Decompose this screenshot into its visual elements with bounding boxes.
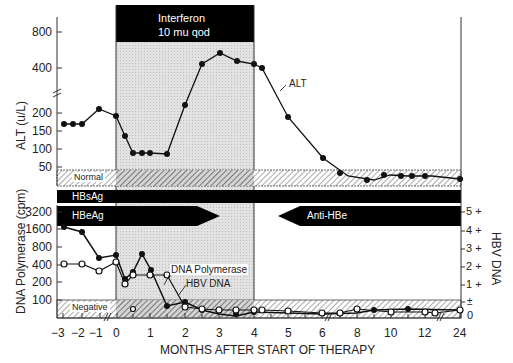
- x-tick-m1: −1: [89, 326, 103, 340]
- hbv-tick-1: 1 +: [466, 278, 482, 290]
- x-tick-0: 0: [113, 326, 120, 340]
- x-tick-12: 12: [418, 326, 431, 340]
- alt-tick-400: 400: [12, 61, 52, 75]
- interferon-dose-label: 10 mu qod: [158, 26, 210, 38]
- x-tick-1: 1: [147, 326, 154, 340]
- x-tick-5: 5: [285, 326, 292, 340]
- hbeag-label: HBeAg: [72, 210, 104, 221]
- hbv-tick-2: 2 +: [466, 260, 482, 272]
- alt-y-axis-title: ALT (u/L): [14, 101, 28, 150]
- hbv-dna-series-label: HBV DNA: [186, 278, 230, 289]
- hbv-tick-pm: ±: [467, 296, 473, 307]
- negative-band-label: Negative: [70, 302, 110, 312]
- dna-polymerase-series-label: DNA Polymerase: [170, 264, 248, 275]
- alt-series-label: ALT: [289, 78, 307, 89]
- x-tick-m3: −3: [51, 326, 65, 340]
- hbv-tick-4: 4 +: [466, 224, 482, 236]
- antihbe-arrow: [278, 206, 461, 226]
- x-tick-6: 6: [319, 326, 326, 340]
- x-tick-3: 3: [216, 326, 223, 340]
- interferon-label: Interferon: [158, 12, 205, 24]
- dna-y-axis-title: DNA Polymerase (cpm): [14, 189, 28, 314]
- hbv-y-axis-title: HBV DNA: [489, 232, 503, 285]
- hbv-tick-5: 5 +: [466, 205, 482, 217]
- x-tick-2: 2: [182, 326, 189, 340]
- x-tick-m2: −2: [71, 326, 85, 340]
- normal-band-label: Normal: [72, 172, 105, 182]
- x-tick-10: 10: [384, 326, 397, 340]
- hbv-tick-0: 0: [467, 309, 473, 321]
- alt-tick-50: 50: [12, 160, 52, 174]
- x-tick-4: 4: [251, 326, 258, 340]
- hbsag-label: HBsAg: [72, 191, 103, 202]
- alt-tick-800: 800: [12, 25, 52, 39]
- antihbe-label: Anti-HBe: [307, 210, 347, 221]
- x-tick-24: 24: [453, 326, 466, 340]
- x-axis-title: MONTHS AFTER START OF THERAPY: [160, 343, 375, 357]
- hbv-tick-3: 3 +: [466, 242, 482, 254]
- x-tick-8: 8: [354, 326, 361, 340]
- hbsag-bar: [57, 190, 461, 203]
